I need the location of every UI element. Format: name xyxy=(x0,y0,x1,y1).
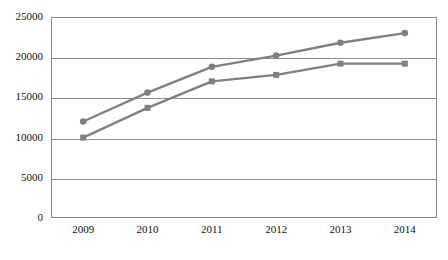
y-axis-tick-label: 25000 xyxy=(16,11,44,22)
gridline xyxy=(52,98,436,99)
y-axis-tick-label: 0 xyxy=(38,212,44,223)
y-axis-tick-label: 20000 xyxy=(16,51,44,62)
gridline xyxy=(52,58,436,59)
y-axis-tick-label: 5000 xyxy=(21,172,43,183)
x-axis-tick-label: 2014 xyxy=(394,224,416,235)
y-axis-tick-labels: 0500010000150002000025000 xyxy=(0,0,47,260)
x-axis-tick-label: 2009 xyxy=(72,224,94,235)
x-axis-tick-label: 2013 xyxy=(330,224,352,235)
x-axis-tick-label: 2011 xyxy=(201,224,223,235)
line-chart: 0500010000150002000025000 20092010201120… xyxy=(0,0,448,260)
gridline xyxy=(52,179,436,180)
plot-area xyxy=(51,17,437,218)
y-axis-tick-label: 10000 xyxy=(16,132,44,143)
x-axis-tick-label: 2012 xyxy=(265,224,287,235)
y-axis-tick-label: 15000 xyxy=(16,91,44,102)
x-axis-tick-label: 2010 xyxy=(137,224,159,235)
x-axis-tick-labels: 200920102011201220132014 xyxy=(0,224,448,248)
gridline xyxy=(52,139,436,140)
